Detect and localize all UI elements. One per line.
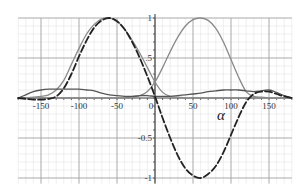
x-tick-label: 150 — [262, 101, 276, 111]
y-tick-label: -1 — [145, 173, 153, 183]
chart: -150-100-50050100150-1-0.5.51 α — [0, 0, 307, 193]
x-axis-label: α — [217, 107, 226, 123]
x-tick-label: 50 — [189, 101, 199, 111]
x-tick-label: -50 — [111, 101, 123, 111]
x-tick-label: 0 — [149, 101, 154, 111]
y-tick-label: 1 — [148, 13, 153, 23]
y-tick-label: -0.5 — [138, 133, 153, 143]
x-tick-label: -150 — [33, 101, 50, 111]
x-tick-label: -100 — [71, 101, 88, 111]
x-tick-label: 100 — [224, 101, 238, 111]
y-tick-label: .5 — [145, 53, 152, 63]
